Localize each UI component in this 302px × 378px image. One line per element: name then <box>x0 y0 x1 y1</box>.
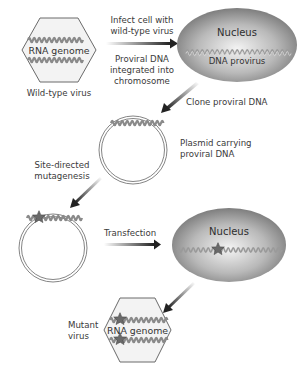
mutant-virus-caption-line-2: virus <box>68 331 89 342</box>
mutagenesis-label-line-1: Site-directed <box>26 160 98 171</box>
plasmid-2 <box>19 211 87 282</box>
transfection-arrow-shaft <box>104 243 154 246</box>
dna-provirus-label: DNA provirus <box>196 56 278 67</box>
nucleus-2 <box>172 208 286 282</box>
plasmid-inner-ring <box>102 119 165 182</box>
plasmid-inner-ring <box>22 217 85 280</box>
integrated-label-line-3: chromosome <box>100 76 184 87</box>
plasmid-caption-line-1: Plasmid carrying <box>180 138 252 149</box>
rna-genome-label: RNA genome <box>22 45 96 56</box>
budding-arrow-shaft <box>168 282 195 308</box>
plasmid-outer-ring <box>99 116 167 184</box>
nucleus-2-title: Nucleus <box>192 226 266 237</box>
infect-arrow-head <box>170 39 178 49</box>
nucleus-ellipse <box>177 8 297 82</box>
integrated-label-line-1: Proviral DNA <box>100 54 184 65</box>
infect-label-line-1: Infect cell with <box>100 15 184 26</box>
plasmid-1 <box>99 116 167 184</box>
nucleus-1-title: Nucleus <box>200 27 274 38</box>
transfection-arrow-head <box>154 240 161 250</box>
nucleus-1 <box>177 8 297 82</box>
plasmid-outer-ring <box>19 214 87 282</box>
mutagenesis-label-line-2: mutagenesis <box>26 171 98 182</box>
infect-arrow-shaft <box>106 42 170 45</box>
mutation-star-icon <box>33 211 46 223</box>
mutant-rna-genome-label: RNA genome <box>104 325 171 336</box>
transfection-label: Transfection <box>104 228 156 239</box>
mutant-virus-caption-line-1: Mutant <box>68 320 98 331</box>
clone-label: Clone proviral DNA <box>186 97 268 108</box>
retrovirus-mutagenesis-diagram: RNA genome Wild-type virus Infect cell w… <box>0 0 302 378</box>
nucleus-ellipse <box>172 208 286 282</box>
proviral-insert <box>111 121 164 125</box>
integrated-label-line-2: integrated into <box>100 65 184 76</box>
infect-label-line-2: wild-type virus <box>100 26 184 37</box>
wild-type-virus-caption: Wild-type virus <box>14 88 104 99</box>
plasmid-caption-line-2: proviral DNA <box>180 149 234 160</box>
